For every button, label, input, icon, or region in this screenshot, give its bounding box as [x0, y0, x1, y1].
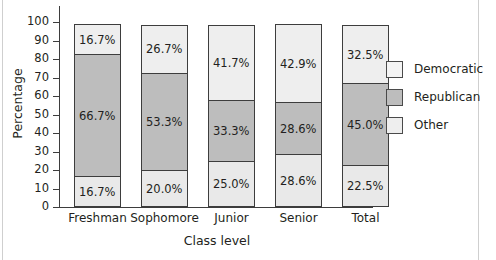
stacked-bar[interactable]: 32.5%45.0%22.5%: [342, 25, 389, 207]
y-tick-mark: [53, 133, 59, 134]
y-tick-mark: [53, 96, 59, 97]
bar-segment-value-label: 20.0%: [142, 182, 183, 196]
legend-swatch-icon: [386, 117, 403, 134]
bar-segment-republican[interactable]: 53.3%: [141, 73, 188, 172]
bar-segment-other[interactable]: 32.5%: [342, 25, 389, 85]
stacked-bar[interactable]: 16.7%66.7%16.7%: [74, 24, 121, 207]
y-tick-mark: [53, 78, 59, 79]
bar-segment-republican[interactable]: 33.3%: [208, 100, 255, 162]
legend-swatch-icon: [386, 61, 403, 78]
bar-segment-other[interactable]: 41.7%: [208, 25, 255, 102]
y-tick-mark: [53, 59, 59, 60]
legend-item-democratic[interactable]: Democratic: [386, 57, 483, 81]
bar-segment-value-label: 33.3%: [209, 124, 250, 138]
bar-segment-value-label: 16.7%: [75, 185, 116, 199]
y-tick-mark: [53, 207, 59, 208]
bar-segment-other[interactable]: 26.7%: [141, 25, 188, 74]
bar-segment-value-label: 16.7%: [75, 33, 116, 47]
bar-segment-value-label: 45.0%: [343, 118, 384, 132]
bar-segment-democratic[interactable]: 20.0%: [141, 170, 188, 207]
bar-segment-value-label: 25.0%: [209, 177, 250, 191]
legend-item-republican[interactable]: Republican: [386, 85, 483, 109]
bar-segment-value-label: 42.9%: [276, 57, 317, 71]
bar-segment-value-label: 26.7%: [142, 42, 183, 56]
legend-label: Democratic: [414, 62, 483, 76]
y-axis-title: Percentage: [10, 54, 25, 154]
bar-segment-value-label: 28.6%: [276, 174, 317, 188]
y-tick-mark: [53, 41, 59, 42]
bar-segment-value-label: 32.5%: [343, 48, 384, 62]
bar-segment-value-label: 22.5%: [343, 179, 384, 193]
legend-label: Other: [414, 118, 448, 132]
y-tick-label: 20: [18, 164, 49, 176]
bar-segment-democratic[interactable]: 16.7%: [74, 176, 121, 207]
y-tick-label: 0: [18, 201, 49, 213]
bar-segment-value-label: 66.7%: [75, 109, 116, 123]
legend-label: Republican: [414, 90, 480, 104]
bar-segment-value-label: 28.6%: [276, 122, 317, 136]
bar-segment-value-label: 53.3%: [142, 115, 183, 129]
y-tick-label: 90: [18, 35, 49, 47]
y-tick-label: 100: [18, 16, 49, 28]
legend-swatch-icon: [386, 89, 403, 106]
bar-segment-democratic[interactable]: 25.0%: [208, 161, 255, 207]
chart-legend: DemocraticRepublicanOther: [386, 57, 483, 141]
y-tick-mark: [53, 22, 59, 23]
bar-segment-democratic[interactable]: 28.6%: [275, 154, 322, 207]
bar-segment-other[interactable]: 42.9%: [275, 24, 322, 103]
y-tick-mark: [53, 170, 59, 171]
y-tick-mark: [53, 115, 59, 116]
bar-segment-republican[interactable]: 45.0%: [342, 83, 389, 166]
y-tick-mark: [53, 189, 59, 190]
bar-segment-democratic[interactable]: 22.5%: [342, 165, 389, 207]
y-tick-mark: [53, 152, 59, 153]
bar-segment-value-label: 41.7%: [209, 56, 250, 70]
x-category-label-total: Total: [323, 211, 409, 225]
y-axis-line: [59, 6, 60, 207]
legend-item-other[interactable]: Other: [386, 113, 483, 137]
x-axis-title: Class level: [60, 233, 374, 248]
bar-segment-republican[interactable]: 66.7%: [74, 54, 121, 177]
stacked-bar[interactable]: 42.9%28.6%28.6%: [275, 24, 322, 207]
stacked-bar[interactable]: 41.7%33.3%25.0%: [208, 25, 255, 207]
bar-segment-other[interactable]: 16.7%: [74, 24, 121, 55]
chart-figure: 0102030405060708090100 Percentage Class …: [0, 0, 496, 260]
bar-segment-republican[interactable]: 28.6%: [275, 102, 322, 155]
y-tick-label: 10: [18, 183, 49, 195]
stacked-bar[interactable]: 26.7%53.3%20.0%: [141, 25, 188, 207]
